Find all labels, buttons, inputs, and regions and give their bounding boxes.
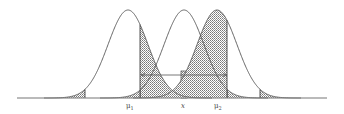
bell-curves — [44, 10, 301, 98]
normal-distributions-diagram — [0, 0, 344, 114]
label-x: x — [181, 103, 185, 110]
label-mu2: μ2 — [214, 103, 222, 111]
mu1-subscript: 1 — [131, 105, 134, 111]
mu2-subscript: 2 — [219, 105, 222, 111]
label-mu1: μ1 — [126, 103, 134, 111]
x-symbol: x — [181, 102, 185, 110]
